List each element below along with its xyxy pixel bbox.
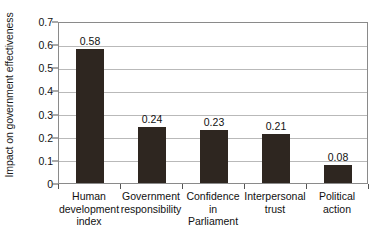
bars-layer: 0.580.240.230.210.08: [59, 23, 367, 183]
bar-slot: 0.58: [59, 23, 121, 183]
y-axis-tick-mark: [52, 45, 58, 46]
x-axis-tick-label: ConfidenceinParliament: [182, 190, 244, 228]
x-axis-tick-label-line: development: [58, 203, 120, 216]
x-axis-tick-label: Politicalaction: [306, 190, 368, 215]
y-axis-tick-mark: [52, 22, 58, 23]
x-axis-tick-label-line: responsibility: [120, 203, 182, 216]
x-axis-tick-labels: HumandevelopmentindexGovernmentresponsib…: [58, 190, 368, 238]
y-axis-title-text: Impact on government effectiveness: [3, 12, 15, 177]
bar-chart: Impact on government effectiveness 00.10…: [0, 0, 384, 242]
x-axis-tick-label-line: Parliament: [182, 215, 244, 228]
x-axis-tick-label-line: in: [182, 203, 244, 216]
bar-value-label: 0.58: [80, 35, 100, 47]
x-axis-tick-mark: [368, 184, 369, 189]
bar[interactable]: [324, 165, 352, 184]
bar[interactable]: [76, 49, 104, 183]
bar-slot: 0.21: [245, 23, 307, 183]
bar[interactable]: [200, 130, 228, 183]
y-axis-tick-mark: [52, 137, 58, 138]
x-axis-tick-label: Humandevelopmentindex: [58, 190, 120, 228]
x-axis-tick-label-line: action: [306, 203, 368, 216]
x-axis-tick-label-line: Interpersonal: [244, 190, 306, 203]
x-axis-tick-label-line: Political: [306, 190, 368, 203]
x-axis-tick-label-line: Human: [58, 190, 120, 203]
x-axis-tick-label-line: Confidence: [182, 190, 244, 203]
x-axis-tick-mark: [244, 184, 245, 189]
x-axis-tick-label: Governmentresponsibility: [120, 190, 182, 215]
x-axis-tick-mark: [182, 184, 183, 189]
bar[interactable]: [262, 134, 290, 183]
x-axis-tick-mark: [58, 184, 59, 189]
y-axis-title: Impact on government effectiveness: [0, 0, 18, 190]
bar-slot: 0.23: [183, 23, 245, 183]
y-axis-tick-labels: 00.10.20.30.40.50.60.7: [18, 0, 57, 242]
x-axis-tick-label-line: index: [58, 215, 120, 228]
x-axis-tick-mark: [120, 184, 121, 189]
bar-value-label: 0.08: [328, 151, 348, 163]
y-axis-tick-mark: [52, 68, 58, 69]
x-axis-tick-label-line: trust: [244, 203, 306, 216]
y-axis-tick-mark: [52, 91, 58, 92]
bar-value-label: 0.21: [266, 120, 286, 132]
x-axis-tick-label-line: Government: [120, 190, 182, 203]
x-axis-tick-mark: [306, 184, 307, 189]
y-axis-tick-mark: [52, 114, 58, 115]
bar[interactable]: [138, 127, 166, 183]
bar-value-label: 0.23: [204, 116, 224, 128]
plot-area: 0.580.240.230.210.08: [58, 22, 368, 184]
x-axis-tick-label: Interpersonaltrust: [244, 190, 306, 215]
bar-value-label: 0.24: [142, 113, 162, 125]
y-axis-tick-mark: [52, 160, 58, 161]
bar-slot: 0.08: [307, 23, 369, 183]
bar-slot: 0.24: [121, 23, 183, 183]
